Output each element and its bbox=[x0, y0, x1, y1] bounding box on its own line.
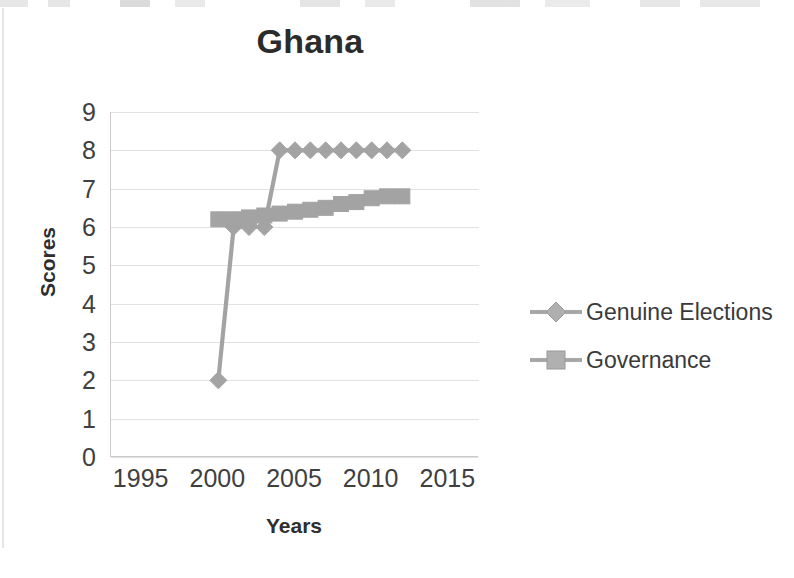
y-tick-label: 7 bbox=[62, 177, 96, 202]
x-tick-label: 2010 bbox=[331, 466, 411, 491]
series-governance bbox=[211, 189, 410, 227]
chart-figure: Ghana Scores Years 0123456789 1995200020… bbox=[0, 0, 794, 578]
x-tick-label: 2005 bbox=[254, 466, 334, 491]
square-marker-icon bbox=[528, 347, 584, 373]
y-tick-label: 5 bbox=[62, 253, 96, 278]
y-tick-label: 6 bbox=[62, 215, 96, 240]
chart-legend: Genuine Elections Governance bbox=[528, 288, 790, 384]
chart-title: Ghana bbox=[0, 22, 620, 61]
legend-item-genuine-elections[interactable]: Genuine Elections bbox=[528, 288, 790, 336]
diamond-marker-icon bbox=[528, 299, 584, 325]
y-tick-label: 1 bbox=[62, 407, 96, 432]
x-axis-title: Years bbox=[110, 514, 478, 538]
series-genuine-elections bbox=[210, 142, 411, 389]
legend-item-governance[interactable]: Governance bbox=[528, 336, 790, 384]
x-tick-label: 2015 bbox=[407, 466, 487, 491]
legend-label-genuine-elections: Genuine Elections bbox=[586, 301, 773, 324]
gridline bbox=[111, 457, 479, 458]
y-tick-label: 4 bbox=[62, 292, 96, 317]
legend-label-governance: Governance bbox=[586, 349, 711, 372]
y-tick-label: 8 bbox=[62, 138, 96, 163]
y-tick-label: 0 bbox=[62, 445, 96, 470]
x-tick-label: 2000 bbox=[177, 466, 257, 491]
scan-artifact-left bbox=[2, 8, 4, 548]
x-tick-label: 1995 bbox=[101, 466, 181, 491]
data-series-layer bbox=[111, 112, 479, 457]
y-axis-title: Scores bbox=[36, 202, 60, 322]
plot-area bbox=[110, 112, 478, 457]
y-tick-label: 3 bbox=[62, 330, 96, 355]
scan-artifact-top bbox=[0, 0, 794, 7]
y-tick-label: 9 bbox=[62, 100, 96, 125]
y-tick-label: 2 bbox=[62, 368, 96, 393]
